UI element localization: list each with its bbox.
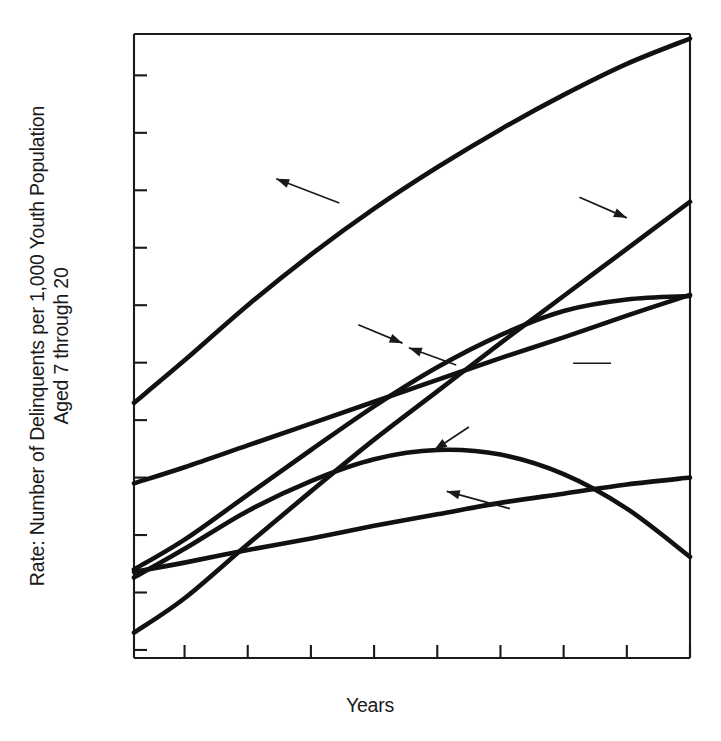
plot-frame <box>134 34 690 658</box>
curve-bronx <box>134 295 690 483</box>
arrowhead-brooklyn <box>613 208 627 217</box>
x-axis-title: Years <box>346 694 395 716</box>
chart-figure: Years Rate: Number of Delinquents per 1,… <box>0 0 721 741</box>
curve-queens <box>134 478 690 572</box>
y-axis-title-line2: Aged 7 through 20 <box>50 267 72 424</box>
arrowhead-new-york-city <box>389 334 403 343</box>
y-axis-title-line1: Rate: Number of Delinquents per 1,000 Yo… <box>26 106 48 586</box>
annotation-leader-lines <box>276 179 627 509</box>
arrowhead-queens <box>447 490 461 499</box>
curve-richmond <box>134 450 690 578</box>
arrowhead-bronx <box>409 348 423 357</box>
x-axis-ticks <box>185 645 690 658</box>
delinquency-rate-line-chart: Years Rate: Number of Delinquents per 1,… <box>0 0 721 741</box>
arrowhead-manhattan <box>276 179 290 188</box>
curve-brooklyn <box>134 202 690 633</box>
data-curves <box>134 39 690 633</box>
